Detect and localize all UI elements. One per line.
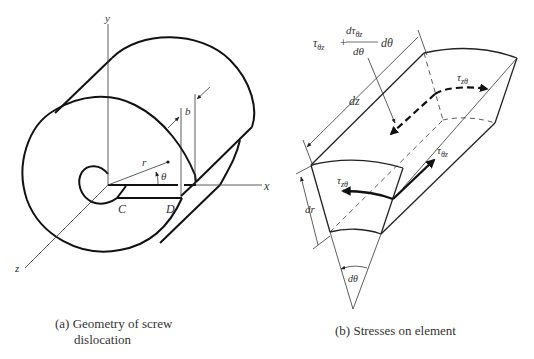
top-left-long-edge [311, 53, 424, 165]
back-top-arc [424, 48, 517, 58]
dr-label: dr [305, 203, 316, 215]
front-cylinder-circle [23, 97, 196, 252]
caption-a-line1: (a) Geometry of screw [55, 316, 173, 331]
point-d-label: D [165, 202, 175, 216]
back-cylinder-lower-arc [220, 140, 240, 185]
tau-z-theta-front-arrow [343, 191, 393, 199]
radial-line-left [330, 232, 353, 309]
radius-line [108, 162, 168, 185]
tau-theta-z-right-label: τθz [437, 144, 449, 159]
bottom-right-long-edge [381, 123, 495, 234]
theta-label: θ [161, 170, 167, 182]
burgers-arrow-1 [168, 117, 179, 128]
caption-a-line2: dislocation [74, 332, 132, 347]
front-bottom-arc [330, 229, 381, 234]
core-circle-close [117, 186, 126, 198]
z-axis-label: z [14, 262, 20, 274]
radius-endpoint [166, 160, 169, 163]
tau-z-theta-back-arrow [435, 87, 487, 94]
theta-arrow [156, 172, 158, 184]
dr-tick-bottom [313, 236, 330, 249]
formula-tau: τθz [313, 36, 325, 52]
caption-b: (b) Stresses on element [335, 323, 456, 338]
dz-label: dz [349, 94, 360, 108]
screw-dislocation-geometry: y x z r θ b C D (a) Geometry of screw di… [14, 12, 270, 347]
formula-plus: + [340, 36, 347, 50]
formula-deriv-numerator: dτθz [346, 24, 363, 39]
diagram-canvas: y x z r θ b C D (a) Geometry of screw di… [0, 0, 534, 359]
radial-line-right [353, 234, 381, 309]
formula-dtheta: dθ [381, 36, 393, 50]
back-cylinder-arc [112, 37, 254, 127]
x-axis-label: x [263, 179, 270, 193]
front-left-edge [311, 165, 330, 232]
slip-edge-back [196, 127, 252, 182]
dz-tick-top [418, 30, 427, 55]
back-right-edge [495, 58, 517, 123]
tau-z-theta-top-label: τzθ [457, 71, 468, 86]
stress-element: τθz + dτθz dθ dθ dz dr dθ τzθ τθz τzθ (b… [296, 24, 517, 338]
radius-label: r [142, 156, 147, 168]
dz-tick-bottom [303, 140, 313, 166]
formula-deriv-denominator: dθ [353, 45, 365, 57]
back-left-edge-hidden [424, 53, 443, 120]
burgers-arrow-2 [197, 87, 210, 99]
y-axis-label: y [104, 12, 110, 24]
dtheta-label: dθ [348, 273, 358, 284]
back-bottom-arc-hidden [443, 118, 495, 123]
bottom-left-long-edge-hidden [330, 120, 443, 232]
dr-tick-top [296, 166, 311, 174]
front-top-arc [311, 160, 403, 168]
tau-theta-z-increment-arrow [391, 94, 435, 134]
leader-arrow [368, 58, 395, 123]
tau-z-theta-front-label: τzθ [337, 174, 348, 189]
point-c-label: C [118, 202, 127, 216]
burgers-vector-label: b [185, 105, 191, 117]
dtheta-arc-arrow [341, 266, 367, 269]
z-axis [25, 185, 108, 268]
